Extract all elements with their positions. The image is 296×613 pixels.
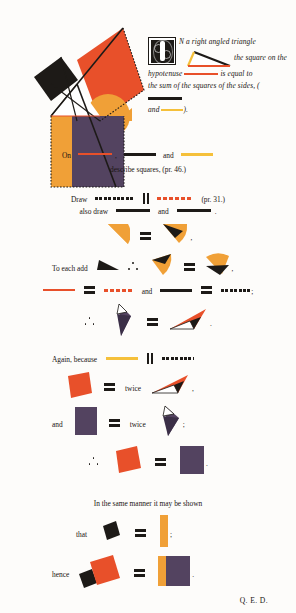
red-triangle-twice-icon bbox=[150, 373, 192, 401]
black-rule-side bbox=[148, 97, 182, 100]
orange-black-wedge-1-icon bbox=[149, 252, 175, 282]
dotted-black-rule-eq bbox=[221, 289, 251, 292]
byrne-euclid-page: N a right angled triangle the square on … bbox=[0, 0, 296, 613]
semicolon-2: ; bbox=[183, 420, 185, 429]
sum-of-squares-text: the sum of the squares of the sides, ( bbox=[148, 81, 260, 90]
yellow-plus-purple-rect-icon bbox=[156, 554, 192, 592]
equals-symbol-9 bbox=[135, 528, 146, 538]
yellow-rule-side bbox=[161, 109, 183, 111]
equals-symbol-5 bbox=[147, 317, 158, 327]
equals-symbol-6 bbox=[104, 382, 115, 392]
decorative-initial-icon bbox=[148, 37, 176, 65]
same-manner-text: In the same manner it may be shown bbox=[94, 499, 203, 508]
statement-line-2: the square on the bbox=[234, 53, 287, 62]
equals-symbol-8 bbox=[155, 457, 166, 467]
red-rule-hypotenuse bbox=[184, 73, 218, 75]
and-label-2: and bbox=[158, 207, 169, 216]
period-2: . bbox=[210, 319, 212, 328]
period-3: . bbox=[206, 459, 208, 468]
to-each-add-row: To each add , bbox=[0, 252, 296, 282]
purple-triangle-twice-icon bbox=[155, 404, 183, 442]
red-square-twice-icon bbox=[64, 370, 94, 404]
black-square-that-icon bbox=[99, 519, 123, 547]
and-label-3: and bbox=[142, 287, 153, 296]
also-draw-label: also draw bbox=[79, 207, 108, 216]
orange-wedge-right-icon bbox=[161, 222, 191, 250]
black-triangle-add-icon bbox=[96, 258, 120, 276]
twice-red-row: twice , bbox=[0, 370, 296, 404]
statement-line-5: and ). bbox=[148, 104, 288, 116]
equals-symbol-7 bbox=[109, 418, 120, 428]
same-manner-row: In the same manner it may be shown bbox=[0, 492, 296, 510]
again-because-label: Again, because bbox=[52, 355, 97, 364]
semicolon-1: ; bbox=[251, 287, 253, 296]
is-equal-to: is equal to bbox=[220, 69, 252, 78]
hypotenuse-word: hypotenuse bbox=[148, 69, 182, 78]
equals-symbol-4 bbox=[201, 285, 212, 295]
period-4: . bbox=[192, 570, 194, 579]
red-rule-on bbox=[78, 153, 112, 155]
triangles-equal-row: . bbox=[0, 302, 296, 342]
semicolon-3: ; bbox=[170, 530, 172, 539]
statement-line-4: the sum of the squares of the sides, ( bbox=[148, 80, 288, 104]
statement-block: N a right angled triangle the square on … bbox=[148, 36, 288, 116]
twice-purple-row: and twice ; bbox=[0, 404, 296, 442]
equals-symbol-3 bbox=[84, 285, 95, 295]
describe-squares-text: describe squares, (pr. 46.) bbox=[110, 165, 186, 174]
equals-symbol-10 bbox=[134, 568, 145, 578]
dotted-black-rule-again bbox=[162, 357, 194, 360]
black-rule-on bbox=[124, 153, 156, 156]
comma-4: , bbox=[192, 384, 194, 393]
that-row: that ; bbox=[0, 514, 296, 552]
black-rule-also-1 bbox=[116, 209, 150, 212]
hence-label: hence bbox=[52, 570, 69, 579]
that-label: that bbox=[76, 530, 87, 539]
construction-row-describe: describe squares, (pr. 46.) bbox=[0, 158, 296, 176]
red-square-conclude-icon bbox=[111, 444, 143, 480]
to-each-add-label: To each add bbox=[52, 264, 88, 273]
yellow-rect-that-icon bbox=[158, 514, 170, 552]
red-plus-black-squares-icon bbox=[77, 552, 123, 594]
again-because-row: Again, because bbox=[0, 348, 296, 366]
hypotenuse-triangle-icon bbox=[180, 48, 232, 68]
comma-2: , bbox=[191, 233, 193, 242]
and-label-4: and bbox=[52, 420, 63, 429]
purple-rect-twice-icon bbox=[73, 405, 99, 441]
equals-symbol-1 bbox=[140, 231, 151, 241]
also-draw-row: also draw and . bbox=[0, 200, 296, 218]
and-word: and bbox=[148, 105, 159, 114]
period-1: . bbox=[215, 207, 217, 216]
therefore-symbol-2 bbox=[84, 317, 95, 327]
statement-initial-continuation: N a right angled triangle bbox=[179, 37, 256, 46]
orange-black-wedge-2-icon bbox=[204, 252, 232, 282]
comma-3: , bbox=[232, 264, 234, 273]
statement-line-3: hypotenuse is equal to bbox=[148, 68, 288, 80]
line-equalities-row: and ; bbox=[0, 280, 296, 298]
yellow-rule-on bbox=[181, 153, 213, 155]
parallel-symbol-2 bbox=[147, 353, 153, 364]
conclude-row-1: . bbox=[0, 444, 296, 480]
equality-row-1: , bbox=[0, 222, 296, 250]
equals-symbol-2 bbox=[184, 262, 195, 272]
close-paren: ). bbox=[183, 105, 188, 114]
orange-wedge-left-icon bbox=[104, 222, 130, 250]
twice-label-2: twice bbox=[130, 420, 146, 429]
purple-rect-conclude-icon bbox=[178, 444, 206, 480]
black-rule-eq bbox=[160, 289, 192, 292]
purple-sliver-triangle-icon bbox=[107, 302, 137, 342]
dashed-red-rule-eq bbox=[104, 289, 134, 292]
red-rule-eq bbox=[43, 289, 75, 291]
red-sliver-triangle-icon bbox=[168, 307, 210, 337]
hence-row: hence . bbox=[0, 552, 296, 594]
yellow-rule-again bbox=[106, 357, 138, 359]
black-rule-also-2 bbox=[177, 209, 211, 212]
qed-label: Q. E. D. bbox=[240, 596, 268, 605]
therefore-symbol-1 bbox=[128, 262, 139, 272]
twice-label-1: twice bbox=[125, 384, 141, 393]
therefore-symbol-3 bbox=[88, 457, 99, 467]
